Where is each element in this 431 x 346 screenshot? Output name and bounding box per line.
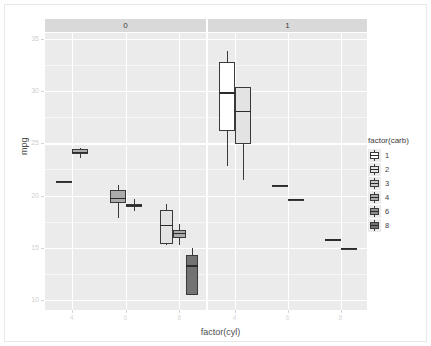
boxplot-median	[173, 233, 186, 234]
y-tick-label: 35	[23, 35, 39, 42]
legend: factor(carb) 1 2 3 4	[368, 136, 409, 233]
x-tick-label: 4	[228, 314, 242, 321]
legend-item-label: 1	[385, 151, 389, 160]
boxplot-box	[235, 87, 251, 144]
boxplot-box	[160, 210, 173, 244]
x-tick-label: 6	[119, 314, 133, 321]
boxplot-box	[110, 190, 126, 203]
whisker-lower	[227, 131, 228, 166]
facet-panel-left	[45, 33, 206, 310]
grid-line-vertical	[288, 33, 289, 310]
boxplot-median	[235, 111, 251, 112]
boxplot-median	[325, 239, 341, 240]
x-tick-mark	[288, 310, 289, 313]
y-tick-mark	[41, 300, 44, 301]
whisker-lower	[243, 144, 244, 179]
grid-line-vertical	[235, 33, 236, 310]
boxplot-median	[110, 198, 126, 199]
grid-line-vertical	[341, 33, 342, 310]
x-tick-label: 8	[172, 314, 186, 321]
y-tick-mark	[41, 143, 44, 144]
x-tick-label: 4	[65, 314, 79, 321]
legend-item[interactable]: 3	[368, 177, 409, 190]
legend-items: 1 2 3 4 6 8	[368, 149, 409, 232]
facet-strip-left: 0	[45, 19, 206, 32]
boxplot-median	[126, 205, 142, 206]
legend-item-label: 4	[385, 193, 389, 202]
x-tick-label: 6	[281, 314, 295, 321]
whisker-upper	[192, 248, 193, 255]
whisker-upper	[227, 51, 228, 63]
y-tick-mark	[41, 248, 44, 249]
boxplot-box	[219, 62, 235, 131]
x-tick-mark	[179, 310, 180, 313]
legend-key-swatch	[368, 163, 381, 176]
legend-item[interactable]: 6	[368, 205, 409, 218]
y-tick-mark	[41, 39, 44, 40]
y-tick-label: 25	[23, 139, 39, 146]
grid-line-vertical	[126, 33, 127, 310]
legend-key-swatch	[368, 205, 381, 218]
x-tick-mark	[126, 310, 127, 313]
legend-item[interactable]: 8	[368, 219, 409, 232]
whisker-lower	[179, 238, 180, 245]
boxplot-median	[72, 152, 88, 153]
facet-panel-right	[208, 33, 367, 310]
boxplot-median	[56, 181, 72, 182]
boxplot-median	[341, 248, 357, 249]
facet-strip-left-label: 0	[123, 21, 127, 30]
legend-item[interactable]: 4	[368, 191, 409, 204]
y-tick-mark	[41, 91, 44, 92]
facet-strip-right: 1	[208, 19, 367, 32]
legend-item[interactable]: 2	[368, 163, 409, 176]
whisker-lower	[134, 207, 135, 211]
facet-strip-right-label: 1	[285, 21, 289, 30]
boxplot-median	[186, 265, 199, 266]
legend-title: factor(carb)	[368, 136, 409, 145]
chart-frame: 0 1 mpg factor(cyl) 101520253035 468468 …	[4, 4, 427, 342]
y-tick-mark	[41, 196, 44, 197]
y-tick-label: 15	[23, 244, 39, 251]
boxplot-median	[219, 92, 235, 93]
whisker-lower	[80, 154, 81, 158]
legend-item-label: 3	[385, 179, 389, 188]
legend-item-label: 6	[385, 207, 389, 216]
x-axis-title: factor(cyl)	[5, 327, 431, 337]
grid-line-vertical	[72, 33, 73, 310]
y-tick-label: 10	[23, 296, 39, 303]
x-tick-mark	[72, 310, 73, 313]
boxplot-median	[288, 199, 304, 200]
legend-key-swatch	[368, 177, 381, 190]
y-tick-label: 20	[23, 192, 39, 199]
legend-key-swatch	[368, 219, 381, 232]
legend-key-swatch	[368, 191, 381, 204]
boxplot-median	[272, 185, 288, 186]
grid-line-vertical	[179, 33, 180, 310]
legend-item-label: 8	[385, 221, 389, 230]
y-tick-label: 30	[23, 87, 39, 94]
legend-item-label: 2	[385, 165, 389, 174]
boxplot-median	[160, 225, 173, 226]
legend-item[interactable]: 1	[368, 149, 409, 162]
legend-key-swatch	[368, 149, 381, 162]
x-tick-mark	[235, 310, 236, 313]
x-tick-mark	[341, 310, 342, 313]
whisker-lower	[118, 203, 119, 219]
boxplot-box	[186, 255, 199, 296]
x-tick-label: 8	[334, 314, 348, 321]
whisker-lower	[166, 244, 167, 245]
